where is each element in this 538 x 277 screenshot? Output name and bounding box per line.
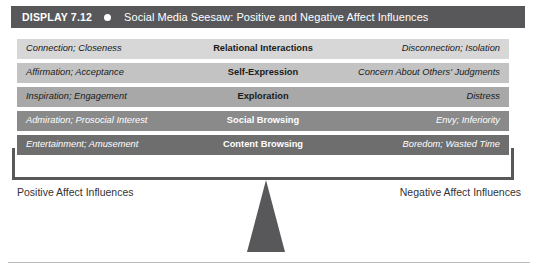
negative-affect-cell: Distress bbox=[297, 92, 500, 101]
behavior-cell: Content Browsing bbox=[215, 140, 311, 149]
behavior-cell: Self-Expression bbox=[220, 68, 306, 77]
table-row: Inspiration; Engagement Exploration Dist… bbox=[17, 87, 509, 107]
positive-affect-caption: Positive Affect Influences bbox=[17, 186, 134, 198]
table-row: Admiration; Prosocial Interest Social Br… bbox=[17, 111, 509, 131]
positive-affect-cell: Inspiration; Engagement bbox=[26, 92, 229, 101]
negative-affect-cell: Envy; Inferiority bbox=[307, 116, 500, 125]
table-row: Entertainment; Amusement Content Browsin… bbox=[17, 135, 509, 155]
figure-header-bar: DISPLAY 7.12 Social Media Seesaw: Positi… bbox=[11, 6, 525, 28]
table-row: Affirmation; Acceptance Self-Expression … bbox=[17, 63, 509, 83]
seesaw-rows: Connection; Closeness Relational Interac… bbox=[17, 39, 509, 155]
negative-affect-cell: Boredom; Wasted Time bbox=[311, 140, 500, 149]
table-row: Connection; Closeness Relational Interac… bbox=[17, 39, 509, 59]
behavior-cell: Exploration bbox=[229, 92, 296, 101]
page-divider bbox=[8, 262, 530, 263]
display-number-label: DISPLAY 7.12 bbox=[22, 11, 92, 23]
behavior-cell: Relational Interactions bbox=[205, 44, 321, 53]
filled-circle-icon bbox=[104, 14, 111, 21]
positive-affect-cell: Entertainment; Amusement bbox=[26, 140, 215, 149]
negative-affect-caption: Negative Affect Influences bbox=[400, 186, 521, 198]
positive-affect-cell: Admiration; Prosocial Interest bbox=[26, 116, 219, 125]
triangle-fulcrum-icon bbox=[247, 180, 285, 252]
seesaw-bracket-left bbox=[12, 148, 15, 180]
positive-affect-cell: Connection; Closeness bbox=[26, 44, 205, 53]
negative-affect-cell: Concern About Others' Judgments bbox=[306, 68, 500, 77]
display-figure: DISPLAY 7.12 Social Media Seesaw: Positi… bbox=[0, 0, 538, 277]
seesaw-bracket-right bbox=[511, 148, 514, 180]
positive-affect-cell: Affirmation; Acceptance bbox=[26, 68, 220, 77]
figure-title: Social Media Seesaw: Positive and Negati… bbox=[124, 11, 428, 23]
behavior-cell: Social Browsing bbox=[219, 116, 307, 125]
negative-affect-cell: Disconnection; Isolation bbox=[321, 44, 500, 53]
